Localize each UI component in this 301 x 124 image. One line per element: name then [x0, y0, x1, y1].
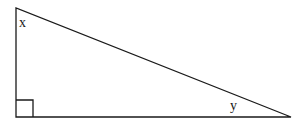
angle-label-y: y: [230, 99, 237, 113]
triangle-outline: [16, 8, 291, 117]
geometry-figure-canvas: x y: [0, 0, 301, 124]
right-angle-square-icon: [16, 100, 33, 117]
angle-label-x: x: [19, 16, 26, 30]
right-triangle-drawing: [0, 0, 301, 124]
